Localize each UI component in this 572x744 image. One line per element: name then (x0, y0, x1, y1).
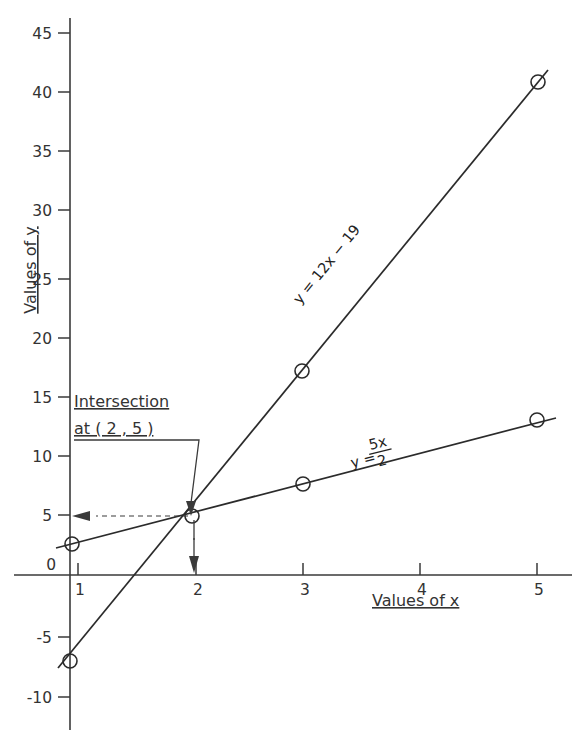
x-tick-label-3: 3 (300, 581, 310, 599)
x-tick-label-5: 5 (534, 581, 544, 599)
x-tick-marks (78, 563, 537, 575)
axes-group (14, 18, 572, 730)
data-point-marker (530, 413, 544, 427)
y-tick-label-10: 10 (32, 448, 52, 466)
y-tick-label-35: 35 (32, 143, 52, 161)
y-tick-marks (58, 33, 70, 697)
y-axis-title: Values of y (21, 226, 40, 313)
y-axis-title-group: Values of y (21, 226, 40, 313)
series-steep-line (58, 70, 548, 668)
chart-canvas: 45 40 35 30 25 20 15 10 5 0 -5 -10 1 2 3… (0, 0, 572, 744)
y-tick-label-30: 30 (32, 202, 52, 220)
x-axis-title: Values of x (372, 591, 459, 610)
intersection-x-guide (189, 520, 199, 573)
x-tick-labels: 1 2 3 4 5 (75, 581, 544, 599)
intersection-callout: Intersection at ( 2 , 5 ) (74, 392, 199, 516)
y-tick-label-5: 5 (42, 507, 52, 525)
x-tick-label-1: 1 (75, 581, 85, 599)
series-shallow-equation-denominator: 2 (376, 452, 389, 470)
y-guide-arrowhead-icon (72, 511, 90, 521)
y-tick-label-0: 0 (46, 556, 56, 574)
y-tick-labels: 45 40 35 30 25 20 15 10 5 0 -5 -10 (27, 25, 56, 707)
x-tick-label-2: 2 (193, 581, 203, 599)
graph-svg: 45 40 35 30 25 20 15 10 5 0 -5 -10 1 2 3… (0, 0, 572, 744)
callout-leader-line (74, 440, 199, 503)
y-tick-label-15: 15 (32, 389, 52, 407)
y-tick-label-minus5: -5 (37, 629, 52, 647)
intersection-callout-line2: at ( 2 , 5 ) (74, 419, 153, 438)
y-tick-label-20: 20 (32, 330, 52, 348)
series-shallow-equation-label: y = 5x 2 (346, 432, 396, 475)
series-steep-path (58, 70, 548, 668)
y-tick-label-minus10: -10 (27, 689, 52, 707)
x-guide-arrowhead-icon (189, 556, 199, 573)
intersection-callout-line1: Intersection (74, 392, 169, 411)
series-steep-equation-text: y = 12x − 19 (290, 222, 363, 307)
x-axis-title-group: Values of x (372, 591, 459, 610)
series-shallow-equation-prefix: y = (349, 449, 377, 471)
series-steep-equation-label: y = 12x − 19 (290, 222, 363, 307)
intersection-y-guide (72, 511, 188, 521)
y-tick-label-45: 45 (32, 25, 52, 43)
y-tick-label-40: 40 (32, 84, 52, 102)
